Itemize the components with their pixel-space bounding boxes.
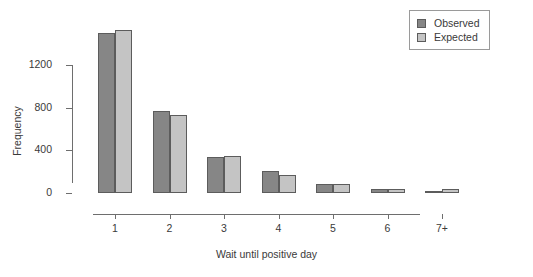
- bar-observed-2: [153, 111, 170, 193]
- bar-expected-5: [333, 184, 350, 193]
- y-axis-tick-label: 800: [0, 101, 62, 113]
- bar-observed-4: [262, 171, 279, 193]
- y-axis-tick-label-wrap: 1200: [0, 58, 62, 70]
- bar-expected-4: [279, 175, 296, 193]
- x-axis-tick: [170, 214, 171, 219]
- x-axis-tick-label: 1: [112, 222, 118, 234]
- bar-observed-3: [207, 157, 224, 193]
- x-axis-tick-label: 6: [385, 222, 391, 234]
- legend-item-observed: Observed: [417, 16, 480, 30]
- legend-swatch-expected-icon: [417, 33, 426, 42]
- y-axis-tick-label-wrap: 400: [0, 143, 62, 155]
- legend-item-expected: Expected: [417, 30, 480, 44]
- bar-observed-7plus: [425, 191, 442, 193]
- x-axis-tick: [388, 214, 389, 219]
- x-axis-tick-label: 3: [221, 222, 227, 234]
- bar-expected-6: [388, 189, 405, 193]
- x-axis-tick: [333, 214, 334, 219]
- bar-expected-3: [224, 156, 241, 193]
- x-axis-title: Wait until positive day: [0, 248, 533, 260]
- x-axis-line: [93, 214, 420, 215]
- y-axis-title: Frequency: [11, 76, 23, 186]
- x-axis-tick: [224, 214, 225, 219]
- y-axis-tick-label-wrap: 800: [0, 101, 62, 113]
- x-axis-tick-label: 5: [330, 222, 336, 234]
- bar-group: [153, 14, 187, 193]
- bar-group: [316, 14, 350, 193]
- y-axis-tick-label: 1200: [0, 58, 62, 70]
- bar-chart: 04008001200 Frequency 1234567+ Wait unti…: [0, 0, 533, 277]
- y-axis-tick: [66, 193, 72, 194]
- bar-group: [207, 14, 241, 193]
- legend-label-expected: Expected: [434, 31, 478, 43]
- bar-observed-1: [98, 33, 115, 193]
- y-axis-tick-label: 400: [0, 143, 62, 155]
- legend-label-observed: Observed: [434, 17, 480, 29]
- bar-expected-7plus: [442, 189, 459, 193]
- x-axis-tick-label: 7+: [436, 222, 448, 234]
- bar-expected-1: [115, 30, 132, 193]
- x-axis-tick-label: 4: [276, 222, 282, 234]
- x-axis-tick: [279, 214, 280, 219]
- x-axis-tick: [442, 214, 443, 219]
- legend: Observed Expected: [409, 10, 490, 50]
- x-axis-tick-label: 2: [167, 222, 173, 234]
- bar-expected-2: [170, 115, 187, 193]
- y-axis-tick-label-wrap: 0: [0, 186, 62, 198]
- y-axis-tick-label: 0: [0, 186, 62, 198]
- bar-observed-6: [371, 189, 388, 193]
- bar-group: [262, 14, 296, 193]
- bar-observed-5: [316, 184, 333, 193]
- bar-group: [371, 14, 405, 193]
- x-axis-tick: [115, 214, 116, 219]
- bar-group: [98, 14, 132, 193]
- legend-swatch-observed-icon: [417, 19, 426, 28]
